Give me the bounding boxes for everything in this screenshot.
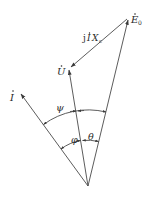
- label-phi: φ: [71, 134, 78, 145]
- psi-arc-u-tick: [70, 111, 76, 112]
- label-jixc-sub: c: [99, 38, 102, 44]
- label-i-dot: [12, 90, 14, 92]
- phasor-u-line: [69, 70, 88, 186]
- phasor-i-line: [21, 94, 88, 186]
- label-psi: ψ: [56, 102, 64, 113]
- psi-arc-u-tick-right: [78, 111, 84, 112]
- label-e0: E 0: [130, 13, 142, 26]
- label-u: U: [57, 65, 66, 77]
- label-jixc-dot: [89, 32, 90, 33]
- label-jixc-j: j: [82, 33, 86, 43]
- label-jixc-i: I: [86, 33, 91, 43]
- phasor-e0-line: [88, 20, 128, 186]
- label-e0-dot: [134, 13, 136, 15]
- label-u-dot: [61, 65, 63, 67]
- label-jixc: j I X c: [82, 32, 102, 44]
- psi-arc: [44, 110, 107, 125]
- label-i-letter: I: [9, 92, 15, 103]
- label-u-letter: U: [57, 66, 66, 77]
- label-jixc-x: X: [91, 33, 99, 43]
- label-e0-sub: 0: [138, 19, 142, 26]
- phasor-diagram: E 0 j I X c U I ψ φ θ: [0, 0, 158, 204]
- label-theta: θ: [88, 131, 94, 142]
- label-i: I: [9, 90, 15, 103]
